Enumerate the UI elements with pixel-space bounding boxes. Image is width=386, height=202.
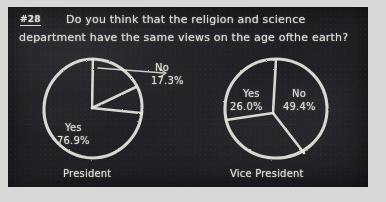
question-number-text: #28 [20, 14, 41, 26]
pie-divider-top-president [92, 60, 93, 108]
pie-divider-right-president [92, 108, 141, 113]
vice-president-no-label: No [292, 88, 306, 99]
question-line-2: department have the same views on the ag… [19, 31, 348, 44]
president-no-value: 17.3% [151, 75, 184, 86]
president-yes-value: 76.9% [57, 135, 90, 146]
vice-president-yes-value: 26.0% [230, 101, 263, 112]
question-number: #28 [20, 14, 41, 24]
pie-divider-left-vice-president [226, 113, 273, 120]
pie-divider-lower-right-vice-president [273, 113, 304, 153]
president-yes-label: Yes [65, 122, 82, 133]
vice-president-yes-label: Yes [243, 88, 260, 99]
vice-president-caption: Vice President [230, 168, 304, 179]
pie-divider-top-vice-president [273, 60, 276, 113]
question-line-1: Do you think that the religion and scien… [66, 13, 305, 26]
pie-chart-president [36, 56, 154, 164]
chalkboard-photo: #28 Do you think that the religion and s… [0, 0, 386, 202]
pie-divider-upper-right-president [92, 87, 136, 108]
president-caption: President [63, 168, 111, 179]
president-no-label: No [155, 62, 169, 73]
vice-president-no-value: 49.4% [283, 101, 316, 112]
